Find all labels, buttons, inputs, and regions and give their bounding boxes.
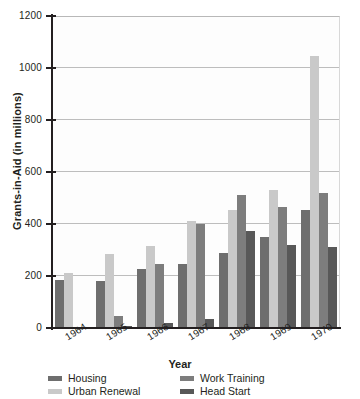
y-tick-mark xyxy=(46,223,56,225)
legend-swatch xyxy=(48,376,62,381)
y-axis-title: Grants-in-Aid (in millions) xyxy=(11,66,23,256)
legend-label: Housing xyxy=(68,372,107,385)
y-tick-mark xyxy=(46,171,56,173)
chart-legend: HousingWork TrainingUrban RenewalHead St… xyxy=(48,372,318,398)
legend-swatch xyxy=(180,389,194,394)
y-tick-mark xyxy=(46,327,56,329)
x-axis-title: Year xyxy=(0,358,360,370)
legend-item: Urban Renewal xyxy=(48,385,166,398)
y-tick-mark xyxy=(46,119,56,121)
legend-item: Head Start xyxy=(180,385,310,398)
chart-root: 020040060080010001200 Grants-in-Aid (in … xyxy=(0,0,360,399)
legend-item: Work Training xyxy=(180,372,310,385)
legend-label: Head Start xyxy=(200,385,250,398)
legend-swatch xyxy=(180,376,194,381)
y-tick-label: 1200 xyxy=(0,10,42,21)
y-tick-mark xyxy=(46,275,56,277)
y-tick-label: 0 xyxy=(0,322,42,333)
legend-swatch xyxy=(48,389,62,394)
y-tick-mark xyxy=(46,15,56,17)
legend-label: Work Training xyxy=(200,372,265,385)
y-tick-mark xyxy=(46,67,56,69)
y-axis-ticks: 020040060080010001200 xyxy=(0,0,360,399)
legend-label: Urban Renewal xyxy=(68,385,140,398)
legend-item: Housing xyxy=(48,372,166,385)
y-tick-label: 200 xyxy=(0,270,42,281)
